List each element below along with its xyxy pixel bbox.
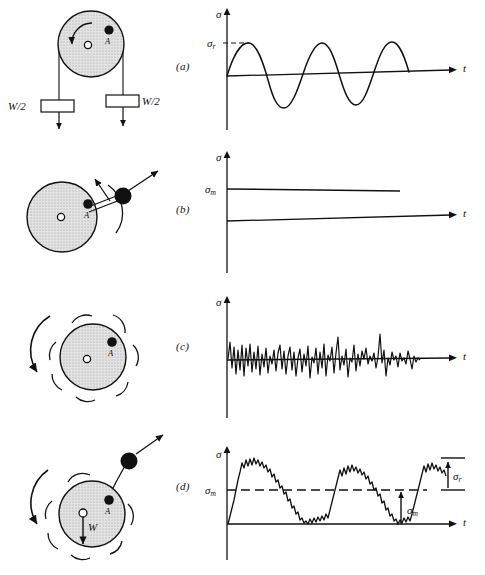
force-arrow-centrifugal-b bbox=[128, 171, 158, 191]
y-axis-arrowhead-b bbox=[224, 151, 231, 158]
panel-d: (d) bbox=[0, 432, 485, 575]
ball-mass-d bbox=[121, 453, 138, 470]
mechanism-a: A W/2 W/2 bbox=[0, 2, 182, 145]
sigma-m-label-b: σm bbox=[205, 183, 216, 197]
weight-block-right bbox=[106, 95, 139, 107]
force-arrow-d bbox=[136, 435, 163, 454]
y-axis-label-d: σ bbox=[216, 448, 222, 460]
rotation-arrow-c bbox=[31, 316, 50, 372]
mechanism-d: A W bbox=[0, 432, 182, 575]
chart-b: σ t σm bbox=[205, 145, 485, 288]
y-axis-label-a: σ bbox=[216, 8, 222, 20]
force-arrow-tangential-b bbox=[95, 179, 110, 201]
x-axis-label-b: t bbox=[463, 207, 467, 219]
x-axis-arrowhead-d bbox=[449, 521, 457, 528]
fatigue-loading-figure: (a) bbox=[0, 0, 485, 575]
disc-center-hole-c bbox=[83, 355, 90, 362]
sigma-m-axis-label-d: σm bbox=[205, 484, 216, 498]
stress-waveform-c bbox=[228, 334, 420, 378]
sigma-r-label-d: σr bbox=[453, 470, 461, 484]
y-axis-arrowhead-a bbox=[224, 8, 231, 15]
mechanism-b: A bbox=[0, 145, 182, 288]
mechanism-c: A bbox=[0, 290, 182, 433]
weight-label-right: W/2 bbox=[142, 95, 160, 107]
point-a-label-c: A bbox=[107, 348, 114, 358]
x-axis-arrowhead-c bbox=[449, 355, 457, 362]
panel-c: (c) A bbox=[0, 290, 485, 433]
x-axis-b bbox=[227, 215, 451, 221]
point-a-marker-b bbox=[83, 199, 93, 209]
sigma-r-label-a: σr bbox=[207, 37, 215, 51]
x-axis-label-a: t bbox=[463, 62, 467, 74]
weight-block-left bbox=[41, 100, 74, 112]
panel-a: (a) bbox=[0, 2, 485, 145]
panel-b: (b) A bbox=[0, 145, 485, 288]
x-axis-arrowhead-b bbox=[449, 212, 457, 219]
weight-label-d: W bbox=[88, 521, 98, 533]
x-axis-label-c: t bbox=[463, 350, 467, 362]
point-a-marker-c bbox=[107, 337, 117, 347]
point-a-marker bbox=[104, 25, 113, 34]
disc-d bbox=[59, 481, 125, 547]
y-axis-label-b: σ bbox=[216, 151, 222, 163]
point-a-label-d: A bbox=[104, 506, 111, 516]
x-axis-label-d: t bbox=[463, 516, 467, 528]
chart-d: σ t σm σm σr bbox=[205, 432, 485, 575]
point-a-label: A bbox=[104, 36, 111, 46]
weight-label-left: W/2 bbox=[8, 100, 26, 112]
sigma-m-arrow-label-d: σm bbox=[407, 504, 418, 518]
chart-c: σ t bbox=[205, 290, 485, 433]
disc-center-hole-a bbox=[84, 41, 91, 48]
chart-a: σ t σr bbox=[205, 2, 485, 145]
y-axis-arrowhead-d bbox=[224, 446, 231, 453]
x-axis-arrowhead-a bbox=[449, 67, 457, 74]
point-a-marker-d bbox=[104, 495, 114, 505]
stress-waveform-b bbox=[227, 189, 400, 191]
disc-center-hole-d bbox=[79, 509, 87, 517]
disc-center-hole-b bbox=[57, 213, 64, 220]
y-axis-arrowhead-c bbox=[224, 296, 231, 303]
y-axis-label-c: σ bbox=[216, 296, 222, 308]
disc-c bbox=[60, 324, 126, 390]
